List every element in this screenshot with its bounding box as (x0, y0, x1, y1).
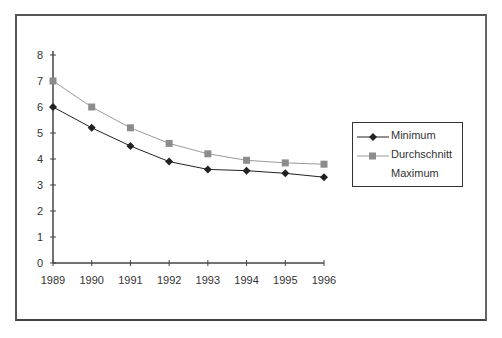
diamond-marker-icon (243, 167, 251, 175)
diamond-marker-icon (204, 165, 212, 173)
square-marker-icon (88, 104, 95, 111)
legend-label: Minimum (391, 129, 436, 141)
x-tick-label: 1992 (157, 274, 181, 286)
series-line (53, 107, 324, 177)
diamond-marker-icon (88, 124, 96, 132)
y-tick-label: 5 (37, 127, 43, 139)
square-marker-icon (243, 157, 250, 164)
x-tick-label: 1995 (273, 274, 297, 286)
legend-label: Durchschnitt (391, 148, 452, 160)
diamond-marker-icon (355, 127, 391, 147)
y-tick-label: 8 (37, 49, 43, 61)
x-axis: 19891990199119921993199419951996 (41, 260, 336, 286)
series-layer (49, 78, 328, 182)
x-tick-label: 1991 (118, 274, 142, 286)
x-tick-label: 1993 (196, 274, 220, 286)
legend-item-minimum: Minimum (353, 127, 464, 147)
series-line (53, 81, 324, 164)
diamond-marker-icon (49, 103, 57, 111)
y-tick-label: 7 (37, 75, 43, 87)
legend-item-maximum: Maximum (353, 165, 464, 185)
y-tick-label: 4 (37, 153, 43, 165)
x-tick-label: 1996 (312, 274, 336, 286)
square-marker-icon (204, 150, 211, 157)
diamond-marker-icon (126, 142, 134, 150)
square-marker-icon (166, 140, 173, 147)
legend-item-durchschnitt: Durchschnitt (353, 146, 464, 166)
x-tick-label: 1990 (79, 274, 103, 286)
diamond-marker-icon (165, 158, 173, 166)
diamond-marker-icon (281, 169, 289, 177)
y-tick-label: 6 (37, 101, 43, 113)
square-marker-icon (282, 159, 289, 166)
x-tick-label: 1989 (41, 274, 65, 286)
legend: Minimum Durchschnitt Maximum (352, 122, 463, 187)
legend-label: Maximum (391, 167, 439, 179)
square-marker-icon (127, 124, 134, 131)
square-marker-icon (321, 161, 328, 168)
y-tick-label: 3 (37, 179, 43, 191)
diamond-marker-icon (320, 173, 328, 181)
square-marker-icon (355, 146, 391, 166)
y-tick-label: 2 (37, 205, 43, 217)
x-tick-label: 1994 (234, 274, 258, 286)
y-tick-label: 0 (37, 257, 43, 269)
y-tick-label: 1 (37, 231, 43, 243)
square-marker-icon (50, 78, 57, 85)
